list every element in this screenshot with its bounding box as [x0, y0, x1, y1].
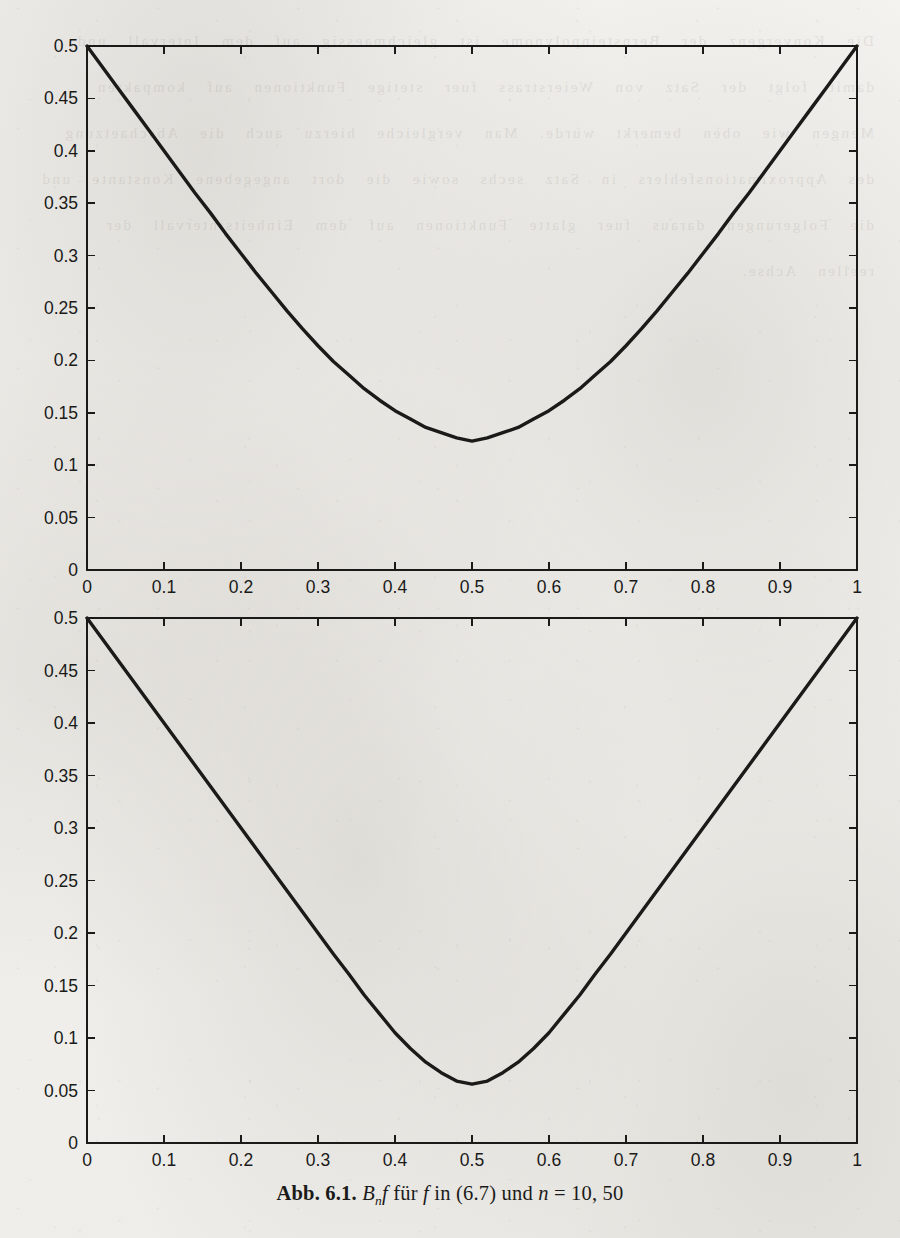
- caption-n-values: = 10, 50: [554, 1182, 624, 1204]
- chart-panel-bottom: 00.10.20.30.40.50.60.70.80.9100.050.10.1…: [0, 572, 900, 1182]
- y-axis-tick-label: 0.25: [44, 871, 78, 891]
- y-axis-tick-label: 0.5: [54, 36, 78, 56]
- y-axis-tick-label: 0.45: [44, 88, 78, 108]
- line-chart-n50: 00.10.20.30.40.50.60.70.80.9100.050.10.1…: [0, 572, 900, 1182]
- y-axis-tick-label: 0.45: [44, 661, 78, 681]
- chart-panel-top: 00.10.20.30.40.50.60.70.80.9100.050.10.1…: [0, 0, 900, 600]
- x-axis-tick-label: 0.8: [691, 1150, 715, 1170]
- y-axis-tick-label: 0.2: [54, 923, 78, 943]
- x-axis-tick-label: 0.7: [614, 1150, 638, 1170]
- y-axis-tick-label: 0.15: [44, 976, 78, 996]
- y-axis-tick-label: 0.1: [54, 455, 78, 475]
- y-axis-tick-label: 0.2: [54, 350, 78, 370]
- plot-frame: [87, 618, 857, 1143]
- data-series-line: [87, 618, 857, 1084]
- y-axis-tick-label: 0.35: [44, 766, 78, 786]
- x-axis-tick-label: 0.4: [383, 1150, 408, 1170]
- y-axis-tick-label: 0.4: [54, 141, 79, 161]
- x-axis-tick-label: 0.1: [152, 1150, 176, 1170]
- x-axis-tick-label: 0.2: [229, 1150, 253, 1170]
- y-axis-tick-label: 0.5: [54, 608, 78, 628]
- y-axis-tick-label: 0.1: [54, 1028, 78, 1048]
- line-chart-n10: 00.10.20.30.40.50.60.70.80.9100.050.10.1…: [0, 0, 900, 600]
- plot-frame: [87, 46, 857, 570]
- caption-label: Abb. 6.1.: [276, 1182, 356, 1204]
- caption-operator: B: [362, 1182, 375, 1204]
- caption-reference: in (6.7) und: [434, 1182, 533, 1204]
- figure-abb-6-1: 00.10.20.30.40.50.60.70.80.9100.050.10.1…: [0, 0, 900, 1238]
- x-axis-tick-label: 0: [82, 1150, 92, 1170]
- x-axis-tick-label: 0.3: [306, 1150, 330, 1170]
- y-axis-tick-label: 0.05: [44, 1081, 78, 1101]
- caption-word-fuer: für: [393, 1182, 418, 1204]
- y-axis-tick-label: 0: [68, 1133, 78, 1153]
- x-axis-tick-label: 0.9: [768, 1150, 792, 1170]
- y-axis-tick-label: 0.05: [44, 508, 78, 528]
- caption-variable-n: n: [538, 1182, 548, 1204]
- y-axis-tick-label: 0.3: [54, 818, 78, 838]
- caption-operator-subscript: n: [375, 1193, 382, 1208]
- figure-caption: Abb. 6.1. Bnf für f in (6.7) und n = 10,…: [0, 1182, 900, 1209]
- y-axis-tick-label: 0.3: [54, 246, 78, 266]
- x-axis-tick-label: 1: [852, 1150, 862, 1170]
- x-axis-tick-label: 0.6: [537, 1150, 561, 1170]
- y-axis-tick-label: 0.25: [44, 298, 78, 318]
- y-axis-tick-label: 0.4: [54, 713, 79, 733]
- data-series-line: [87, 46, 857, 441]
- y-axis-tick-label: 0.15: [44, 403, 78, 423]
- x-axis-tick-label: 0.5: [460, 1150, 484, 1170]
- y-axis-tick-label: 0.35: [44, 193, 78, 213]
